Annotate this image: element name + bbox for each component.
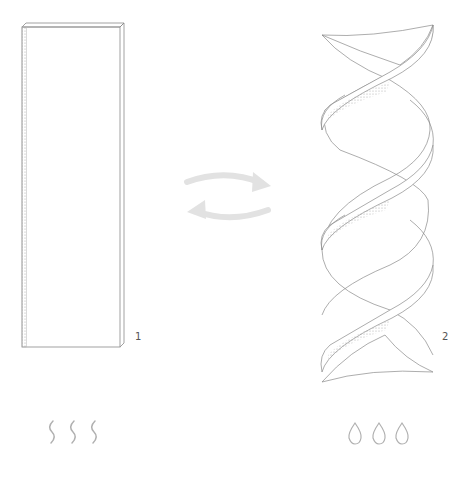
- heat-wave-icon: [50, 421, 55, 443]
- twisted-helix: [321, 25, 433, 382]
- heat-wave-icons: [50, 421, 97, 443]
- exchange-arrows-icon: [187, 172, 271, 219]
- label-flat-plank: 1: [135, 331, 141, 342]
- water-drop-icon: [373, 423, 385, 444]
- water-drop-icons: [349, 423, 408, 444]
- water-drop-icon: [349, 423, 361, 444]
- label-twisted-helix: 2: [442, 331, 448, 342]
- heat-wave-icon: [71, 421, 76, 443]
- water-drop-icon: [396, 423, 408, 444]
- plank-shaded-edge: [22, 27, 27, 347]
- flat-plank: [22, 23, 124, 347]
- diagram-canvas: [0, 0, 465, 483]
- heat-wave-icon: [92, 421, 97, 443]
